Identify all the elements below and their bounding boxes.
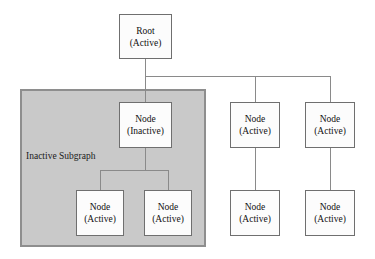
- edge-inner-bus-to-sub-child-2: [168, 170, 169, 190]
- node-branch-2-line1: Node: [245, 113, 266, 125]
- edge-bus-horizontal: [145, 76, 331, 77]
- inactive-subgraph-label-line2: Subgraph: [59, 151, 95, 161]
- edge-inner-bus-to-sub-child-1: [100, 170, 101, 190]
- node-inactive-line2: (Inactive): [127, 125, 164, 137]
- node-leaf-2[interactable]: Node (Active): [230, 190, 280, 236]
- node-root-line2: (Active): [130, 37, 162, 49]
- node-sub-child-2[interactable]: Node (Active): [144, 190, 192, 236]
- edge-branch-2-to-leaf-2: [255, 148, 256, 190]
- node-inactive-line1: Node: [135, 113, 156, 125]
- node-branch-3[interactable]: Node (Active): [305, 102, 355, 148]
- node-leaf-3[interactable]: Node (Active): [305, 190, 355, 236]
- node-inactive[interactable]: Node (Inactive): [119, 102, 172, 148]
- node-branch-2-line2: (Active): [239, 125, 271, 137]
- edge-bus-to-branch-3: [330, 76, 331, 102]
- node-root[interactable]: Root (Active): [119, 14, 172, 59]
- edge-branch-3-to-leaf-3: [330, 148, 331, 190]
- node-sub-child-2-line1: Node: [158, 201, 179, 213]
- edge-inactive-node-to-inner-bus: [145, 148, 146, 171]
- node-leaf-3-line1: Node: [320, 201, 341, 213]
- node-leaf-2-line2: (Active): [239, 213, 271, 225]
- node-leaf-3-line2: (Active): [314, 213, 346, 225]
- node-branch-3-line1: Node: [320, 113, 341, 125]
- node-sub-child-1[interactable]: Node (Active): [76, 190, 124, 236]
- node-root-line1: Root: [136, 25, 154, 37]
- diagram-canvas: Inactive Subgraph Root (Active) Node (In…: [0, 0, 375, 259]
- node-branch-3-line2: (Active): [314, 125, 346, 137]
- node-branch-2[interactable]: Node (Active): [230, 102, 280, 148]
- node-sub-child-2-line2: (Active): [152, 213, 184, 225]
- edge-inner-bus-horizontal: [100, 170, 169, 171]
- edge-bus-to-branch-2: [255, 76, 256, 102]
- node-leaf-2-line1: Node: [245, 201, 266, 213]
- edge-root-to-bus: [145, 58, 146, 77]
- edge-bus-to-inactive-node: [145, 76, 146, 102]
- node-sub-child-1-line2: (Active): [84, 213, 116, 225]
- inactive-subgraph-label-line1: Inactive: [26, 151, 57, 161]
- inactive-subgraph-label: Inactive Subgraph: [26, 151, 88, 163]
- node-sub-child-1-line1: Node: [90, 201, 111, 213]
